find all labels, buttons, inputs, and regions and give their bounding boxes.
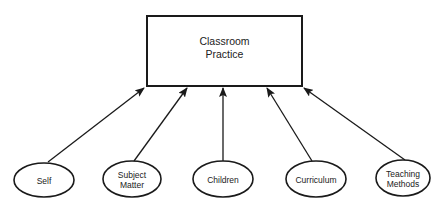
label-line: Curriculum — [295, 175, 336, 185]
label-line: Methods — [387, 179, 420, 189]
node-subject-matter: SubjectMatter — [103, 161, 161, 197]
node-teaching-methods: TeachingMethods — [376, 160, 430, 196]
node-children: Children — [193, 161, 253, 197]
arrows — [48, 88, 405, 162]
classroom-practice-box: ClassroomPractice — [147, 16, 302, 86]
label-line: Children — [207, 175, 239, 185]
arrow-teaching-methods — [304, 88, 405, 160]
diagram-canvas: ClassroomPractice SelfSubjectMatterChild… — [0, 0, 447, 214]
arrow-self — [48, 88, 144, 162]
label-line: Matter — [120, 180, 144, 190]
label-line: Practice — [206, 48, 244, 60]
node-curriculum: Curriculum — [286, 161, 346, 197]
label-line: Self — [37, 176, 52, 186]
arrow-curriculum — [267, 88, 312, 161]
label-line: Teaching — [386, 169, 420, 179]
node-self: Self — [14, 163, 74, 197]
label-line: Classroom — [199, 35, 249, 47]
arrow-subject-matter — [134, 88, 187, 161]
label-line: Subject — [118, 170, 147, 180]
influence-nodes: SelfSubjectMatterChildrenCurriculumTeach… — [14, 160, 430, 197]
